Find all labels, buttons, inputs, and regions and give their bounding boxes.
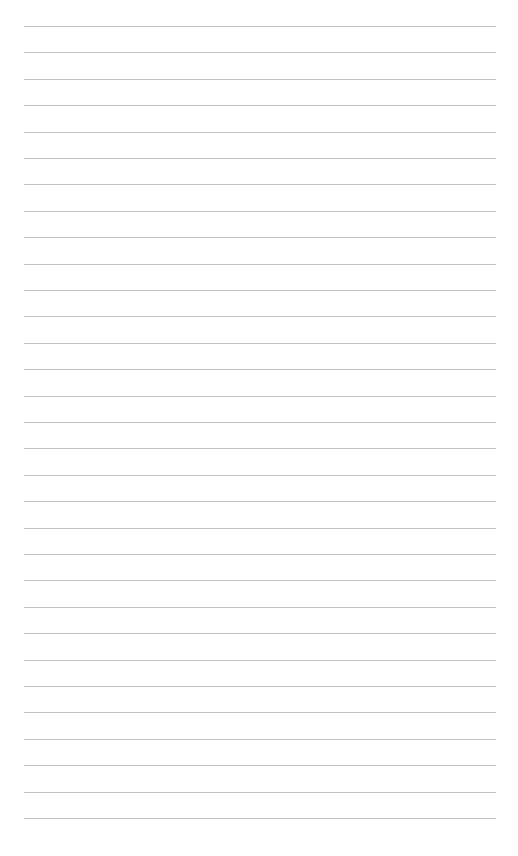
ruled-line (24, 765, 496, 766)
ruled-line (24, 792, 496, 793)
ruled-line (24, 79, 496, 80)
ruled-line (24, 105, 496, 106)
ruled-line (24, 686, 496, 687)
ruled-line (24, 818, 496, 819)
ruled-line (24, 528, 496, 529)
ruled-line (24, 52, 496, 53)
ruled-line (24, 184, 496, 185)
ruled-line (24, 264, 496, 265)
ruled-line (24, 290, 496, 291)
ruled-line (24, 343, 496, 344)
ruled-line (24, 739, 496, 740)
ruled-line (24, 554, 496, 555)
ruled-line (24, 132, 496, 133)
ruled-line (24, 607, 496, 608)
ruled-line (24, 448, 496, 449)
ruled-line (24, 369, 496, 370)
ruled-line (24, 396, 496, 397)
ruled-line (24, 26, 496, 27)
ruled-line (24, 475, 496, 476)
ruled-line (24, 211, 496, 212)
ruled-line (24, 158, 496, 159)
ruled-line (24, 660, 496, 661)
ruled-line (24, 316, 496, 317)
ruled-line (24, 422, 496, 423)
ruled-line (24, 501, 496, 502)
ruled-line (24, 712, 496, 713)
lined-paper-sheet (0, 0, 518, 856)
ruled-line (24, 237, 496, 238)
ruled-line (24, 633, 496, 634)
ruled-line (24, 580, 496, 581)
